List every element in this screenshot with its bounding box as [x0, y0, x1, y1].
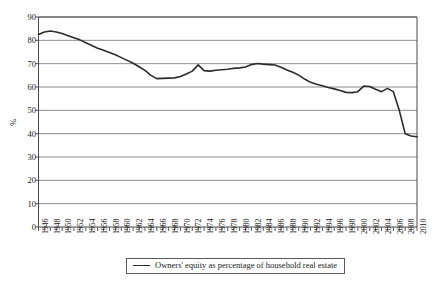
gridlines: [36, 17, 418, 227]
legend-label-owners-equity: Owners' equity as percentage of househol…: [155, 261, 337, 270]
plot-area: [0, 0, 432, 287]
x-axis-ticks: [39, 227, 418, 231]
axis-lines: [39, 17, 418, 227]
legend-swatch-owners-equity: [133, 265, 150, 266]
series-line-owners-equity: [39, 31, 418, 137]
chart-container: % 9080706050403020100 194619481950195219…: [0, 0, 432, 287]
legend: Owners' equity as percentage of househol…: [126, 258, 345, 274]
